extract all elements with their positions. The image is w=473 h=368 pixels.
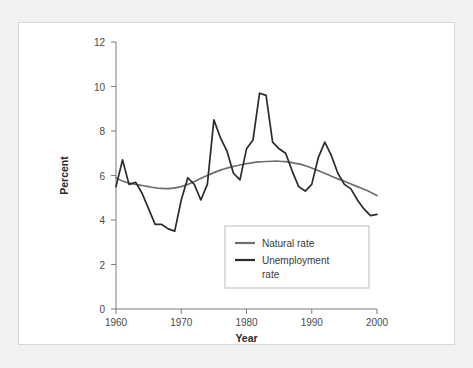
- y-tick-label: 8: [99, 126, 105, 137]
- chart-legend: Natural rate Unemployment rate: [225, 226, 369, 288]
- figure-root: 12 10 8 6 4 2 0 1960 1970 1980: [0, 0, 473, 368]
- x-axis-ticks: [116, 309, 377, 314]
- x-tick-label: 1980: [235, 317, 258, 328]
- y-axis-title: Percent: [58, 156, 70, 195]
- chart-panel: 12 10 8 6 4 2 0 1960 1970 1980: [18, 22, 455, 345]
- y-tick-label: 10: [94, 82, 106, 93]
- legend-label-unemployment-rate-line1: Unemployment: [262, 255, 329, 266]
- x-tick-label: 2000: [366, 317, 389, 328]
- y-tick-label: 2: [99, 260, 105, 271]
- x-tick-label: 1990: [301, 317, 324, 328]
- line-chart: 12 10 8 6 4 2 0 1960 1970 1980: [19, 23, 454, 344]
- y-tick-label: 12: [94, 37, 106, 48]
- legend-label-natural-rate: Natural rate: [262, 238, 315, 249]
- series-line-unemployment-rate: [116, 93, 377, 231]
- x-tick-label: 1970: [170, 317, 193, 328]
- y-tick-label: 0: [99, 304, 105, 315]
- x-tick-label: 1960: [105, 317, 128, 328]
- x-axis-title: Year: [235, 332, 257, 344]
- y-axis-ticks: [111, 42, 116, 309]
- series-line-natural-rate: [116, 161, 377, 195]
- y-tick-label: 4: [99, 215, 105, 226]
- y-axis-tick-labels: 12 10 8 6 4 2 0: [94, 37, 106, 315]
- x-axis-tick-labels: 1960 1970 1980 1990 2000: [105, 317, 389, 328]
- legend-label-unemployment-rate-line2: rate: [262, 269, 280, 280]
- y-tick-label: 6: [99, 171, 105, 182]
